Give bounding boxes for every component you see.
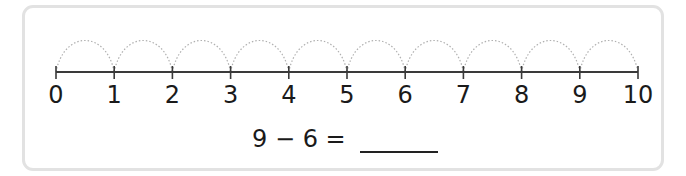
jump-arc	[347, 41, 405, 73]
tick-label-10: 10	[618, 80, 658, 110]
answer-blank[interactable]	[360, 151, 438, 153]
jump-arc	[56, 41, 114, 73]
jump-arc	[289, 41, 347, 73]
tick-label-5: 5	[327, 80, 367, 110]
tick-label-2: 2	[152, 80, 192, 110]
tick-label-1: 1	[94, 80, 134, 110]
tick-label-0: 0	[36, 80, 76, 110]
tick-label-3: 3	[211, 80, 251, 110]
equation-text: 9 − 6 =	[252, 124, 346, 154]
jump-arc	[522, 41, 580, 73]
jump-arc	[580, 41, 638, 73]
jump-arc	[172, 41, 230, 73]
tick-label-4: 4	[269, 80, 309, 110]
jump-arc	[463, 41, 521, 73]
tick-label-7: 7	[443, 80, 483, 110]
tick-label-9: 9	[560, 80, 600, 110]
jump-arc	[405, 41, 463, 73]
jump-arc	[114, 41, 172, 73]
tick-label-8: 8	[502, 80, 542, 110]
jump-arc	[231, 41, 289, 73]
tick-label-6: 6	[385, 80, 425, 110]
